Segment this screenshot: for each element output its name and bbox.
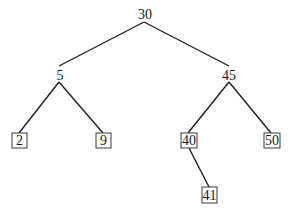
node-label: 9 [100, 133, 107, 148]
node-label: 5 [57, 68, 64, 83]
node-label: 40 [182, 133, 196, 148]
edge-30-45 [144, 22, 229, 66]
tree-node-30: 30 [138, 7, 152, 22]
edge-30-5 [59, 22, 144, 66]
edge-5-9 [59, 82, 103, 133]
tree-edges [19, 22, 271, 187]
tree-node-50: 50 [264, 133, 280, 148]
tree-node-2: 2 [12, 133, 27, 148]
node-label: 50 [265, 133, 279, 148]
node-label: 2 [16, 133, 23, 148]
node-label: 41 [203, 188, 217, 203]
tree-node-45: 45 [222, 68, 236, 83]
node-label: 45 [222, 68, 236, 83]
edge-5-2 [19, 82, 59, 133]
edge-40-41 [189, 148, 209, 187]
tree-node-41: 41 [202, 187, 217, 203]
tree-node-9: 9 [96, 133, 111, 148]
edge-45-50 [229, 82, 271, 133]
node-label: 30 [138, 7, 152, 22]
tree-node-40: 40 [181, 133, 197, 148]
tree-node-5: 5 [57, 68, 64, 83]
tree-diagram: 30 5 45 2 9 40 50 41 [0, 0, 293, 218]
edge-45-40 [188, 82, 229, 133]
